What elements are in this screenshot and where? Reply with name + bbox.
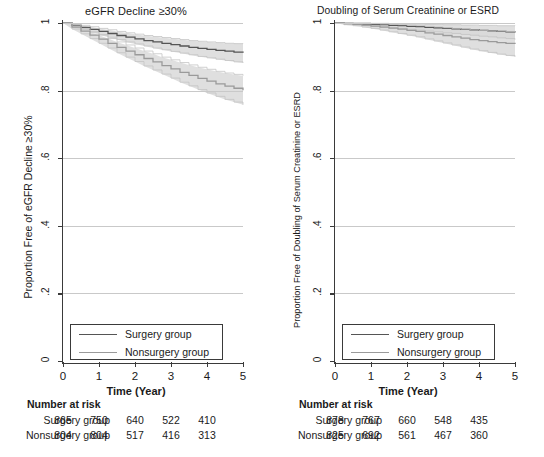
gridline	[335, 158, 515, 159]
y-tick-label: .2	[312, 283, 323, 301]
y-tick-mark	[58, 91, 63, 92]
x-tick-label: 4	[199, 370, 215, 382]
y-tick-mark	[330, 226, 335, 227]
x-tick-mark	[443, 362, 444, 367]
y-tick-label: .6	[40, 148, 51, 166]
x-tick-label: 3	[435, 370, 451, 382]
y-tick-mark	[330, 293, 335, 294]
plot-area: 0.2.4.6.81012345	[63, 23, 243, 361]
y-tick-label: 1	[312, 13, 323, 31]
y-tick-label: 0	[312, 351, 323, 369]
risk-value: 467	[430, 429, 456, 441]
risk-value: 416	[158, 429, 184, 441]
y-tick-label: .4	[40, 215, 51, 233]
gridline	[63, 91, 243, 92]
x-tick-label: 2	[399, 370, 415, 382]
gridline	[63, 23, 243, 24]
gridline	[63, 158, 243, 159]
risk-row-nonsurgery: Nonsurgery group 804804517416313	[0, 429, 272, 444]
risk-value: 692	[358, 429, 384, 441]
legend: Surgery group Nonsurgery group	[342, 324, 495, 360]
legend-label-surgery: Surgery group	[397, 328, 464, 340]
y-tick-mark	[58, 226, 63, 227]
y-tick-label: .8	[40, 80, 51, 98]
gridline	[63, 226, 243, 227]
x-axis-line	[62, 363, 244, 364]
survival-figure: eGFR Decline ≥30% Proportion Free of eGF…	[0, 0, 544, 457]
risk-row-nonsurgery: Nonsurgery group 825692561467360	[272, 429, 544, 444]
y-tick-mark	[58, 293, 63, 294]
risk-row-surgery: Surgery group 878767660548435	[272, 414, 544, 429]
x-tick-label: 0	[327, 370, 343, 382]
x-tick-label: 5	[235, 370, 251, 382]
y-tick-label: .8	[312, 80, 323, 98]
risk-value: 522	[158, 414, 184, 426]
y-tick-mark	[330, 23, 335, 24]
legend-swatch-surgery	[351, 334, 389, 335]
risk-value: 825	[322, 429, 348, 441]
x-tick-label: 2	[127, 370, 143, 382]
y-axis-label: Proportion Free of Doubling of Serum Cre…	[292, 45, 308, 375]
km-curves	[63, 23, 243, 361]
x-tick-mark	[335, 362, 336, 367]
risk-value: 640	[122, 414, 148, 426]
x-tick-mark	[407, 362, 408, 367]
x-tick-mark	[515, 362, 516, 367]
x-tick-mark	[243, 362, 244, 367]
legend-swatch-surgery	[79, 334, 117, 335]
x-tick-label: 1	[91, 370, 107, 382]
gridline	[335, 91, 515, 92]
risk-table-title: Number at risk	[299, 398, 373, 410]
risk-value: 865	[50, 414, 76, 426]
gridline	[63, 293, 243, 294]
x-tick-label: 3	[163, 370, 179, 382]
risk-value: 660	[394, 414, 420, 426]
legend-label-nonsurgery: Nonsurgery group	[125, 346, 209, 358]
x-tick-label: 0	[55, 370, 71, 382]
risk-value: 767	[358, 414, 384, 426]
x-tick-mark	[171, 362, 172, 367]
gridline	[335, 226, 515, 227]
legend-item-surgery: Surgery group	[343, 325, 494, 343]
risk-value: 313	[194, 429, 220, 441]
y-tick-label: .6	[312, 148, 323, 166]
km-curves	[335, 23, 515, 361]
legend-item-nonsurgery: Nonsurgery group	[343, 343, 494, 361]
y-tick-mark	[330, 158, 335, 159]
gridline	[335, 23, 515, 24]
plot-area: 0.2.4.6.81012345	[335, 23, 515, 361]
legend: Surgery group Nonsurgery group	[70, 324, 223, 360]
y-tick-label: 1	[40, 13, 51, 31]
x-tick-label: 4	[471, 370, 487, 382]
legend-item-nonsurgery: Nonsurgery group	[71, 343, 222, 361]
x-tick-mark	[371, 362, 372, 367]
risk-value: 360	[466, 429, 492, 441]
y-tick-mark	[58, 158, 63, 159]
y-tick-label: 0	[40, 351, 51, 369]
risk-value: 750	[86, 414, 112, 426]
x-axis-label: Time (Year)	[0, 385, 272, 397]
risk-value: 804	[86, 429, 112, 441]
x-tick-mark	[135, 362, 136, 367]
legend-item-surgery: Surgery group	[71, 325, 222, 343]
x-tick-mark	[99, 362, 100, 367]
legend-label-nonsurgery: Nonsurgery group	[397, 346, 481, 358]
x-axis-label: Time (Year)	[272, 385, 544, 397]
panel-doubling-creatinine-esrd: Doubling of Serum Creatinine or ESRD Pro…	[272, 0, 544, 457]
risk-value: 548	[430, 414, 456, 426]
y-tick-mark	[330, 91, 335, 92]
risk-value: 517	[122, 429, 148, 441]
legend-swatch-nonsurgery	[79, 352, 117, 353]
risk-value: 561	[394, 429, 420, 441]
x-tick-label: 5	[507, 370, 523, 382]
x-axis-line	[334, 363, 516, 364]
x-tick-mark	[207, 362, 208, 367]
legend-label-surgery: Surgery group	[125, 328, 192, 340]
gridline	[335, 293, 515, 294]
y-tick-label: .2	[40, 283, 51, 301]
risk-row-surgery: Surgery group 865750640522410	[0, 414, 272, 429]
risk-value: 435	[466, 414, 492, 426]
risk-value: 804	[50, 429, 76, 441]
risk-table-title: Number at risk	[27, 398, 101, 410]
y-tick-mark	[58, 23, 63, 24]
